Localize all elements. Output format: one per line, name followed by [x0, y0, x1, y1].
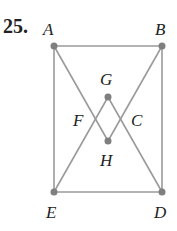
point-B — [159, 43, 166, 50]
label-G: G — [100, 70, 112, 89]
edges — [54, 46, 162, 192]
label-C: C — [131, 111, 143, 130]
label-H: H — [99, 151, 114, 170]
label-F: F — [72, 111, 84, 130]
label-B: B — [155, 20, 166, 39]
label-E: E — [45, 203, 57, 222]
label-A: A — [42, 20, 54, 39]
geometry-figure: 25. ABEDGHFC — [0, 0, 177, 231]
point-D — [159, 189, 166, 196]
points — [51, 43, 166, 196]
label-D: D — [153, 203, 167, 222]
point-A — [51, 43, 58, 50]
point-G — [105, 94, 112, 101]
point-E — [51, 189, 58, 196]
point-H — [105, 138, 112, 145]
problem-number: 25. — [3, 15, 28, 37]
